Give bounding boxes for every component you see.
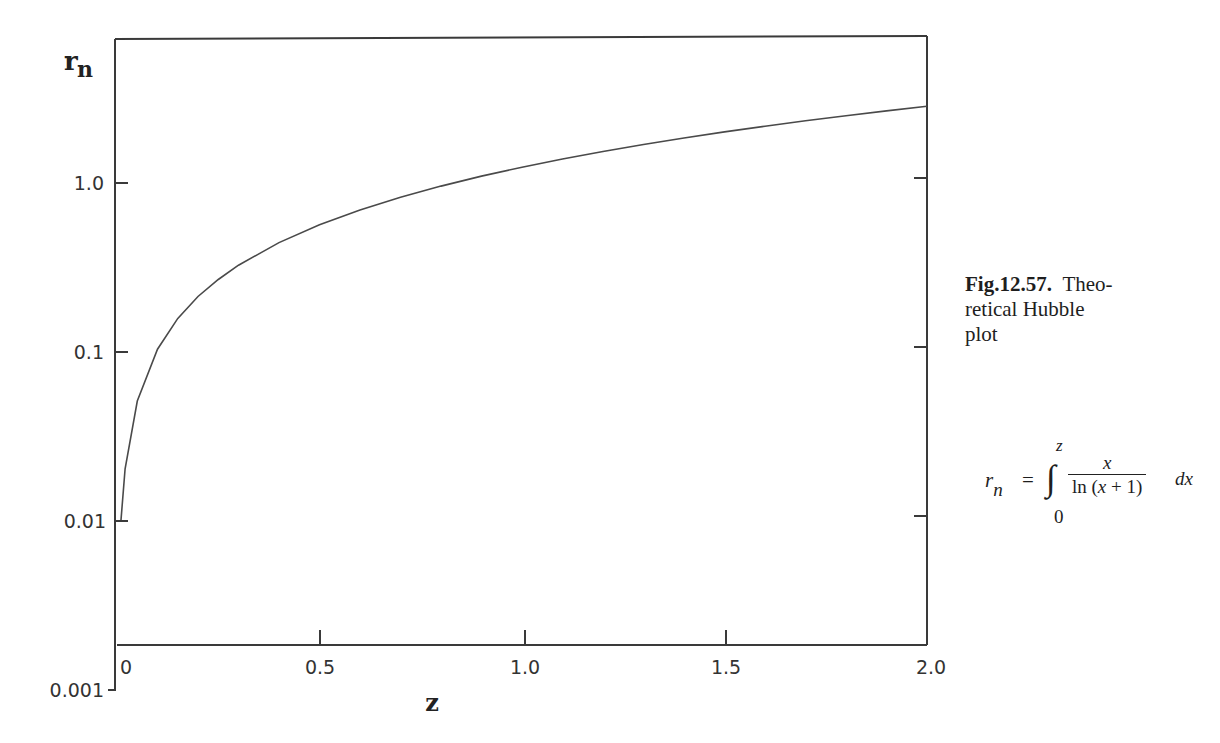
svg-text:r: r (64, 46, 78, 76)
formula-differential: dx (1175, 468, 1193, 490)
svg-text:n: n (77, 56, 93, 82)
x-tick-label-1-0: 1.0 (510, 656, 540, 678)
hubble-plot: 1.0 0.1 0.01 0.001 0 0.5 1.0 1.5 2.0 r n… (0, 0, 1220, 743)
y-tick-label-0-1: 0.1 (74, 341, 104, 363)
fraction-denominator: ln (x + 1) (1068, 474, 1146, 498)
caption-line-2: retical Hubble (965, 297, 1085, 321)
integral-sign: ∫ (1046, 458, 1056, 498)
x-tick-label-1-5: 1.5 (711, 656, 741, 678)
figure-caption: Fig.12.57. Theo- retical Hubble plot (965, 272, 1205, 347)
formula-lhs: rn (985, 468, 1003, 497)
rn-curve (121, 106, 927, 520)
y-ticks-right (914, 178, 927, 516)
fraction-numerator: x (1068, 452, 1146, 474)
formula-fraction: x ln (x + 1) (1068, 452, 1146, 498)
x-ticks (320, 630, 726, 645)
integral-upper-limit: z (1056, 436, 1063, 456)
x-axis-title: z (425, 688, 439, 717)
y-axis-title: r n (64, 46, 93, 82)
y-tick-label-1: 1.0 (74, 172, 104, 194)
caption-line-3: plot (965, 322, 998, 346)
formula-equals: = (1022, 468, 1034, 493)
rn-formula: rn = z ∫ 0 x ln (x + 1) dx (980, 436, 1200, 536)
integral-lower-limit: 0 (1054, 506, 1064, 528)
x-tick-label-2-0: 2.0 (916, 656, 946, 678)
x-tick-label-0: 0 (120, 656, 132, 678)
y-tick-label-0-01: 0.01 (64, 510, 106, 532)
figure-number: Fig.12.57. (965, 272, 1052, 296)
caption-line-1: Theo- (1062, 272, 1112, 296)
x-tick-label-0-5: 0.5 (305, 656, 335, 678)
plot-frame (115, 36, 927, 690)
frame-top (115, 36, 927, 39)
y-ticks-left (108, 183, 128, 690)
y-tick-label-0-001: 0.001 (50, 679, 104, 701)
